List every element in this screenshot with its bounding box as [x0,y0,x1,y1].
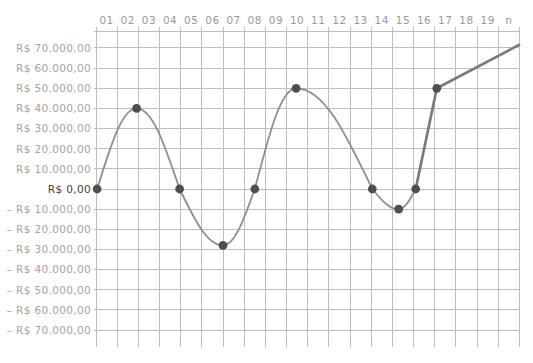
y-axis-label: – R$ 40.000,00 [7,263,91,275]
y-axis-label: – R$ 50.000,00 [7,284,91,296]
data-point-dot [93,185,102,194]
x-axis-label: 08 [248,14,262,26]
x-axis-label: 09 [269,14,283,26]
y-axis-label: R$ 10.000,00 [16,163,91,175]
x-axis-label: 07 [226,14,240,26]
y-axis-label: – R$ 10.000,00 [7,203,91,215]
x-axis-label: 03 [142,14,156,26]
x-axis-label: 12 [332,14,346,26]
x-axis-label: 05 [184,14,198,26]
data-point-dot [132,104,141,113]
x-axis-label: 11 [311,14,325,26]
x-axis-label: 04 [163,14,177,26]
x-axis-label: 17 [438,14,452,26]
data-point-dot [411,185,420,194]
chart-canvas: R$ 70.000,00R$ 60.000,00R$ 50.000,00R$ 4… [0,0,533,363]
x-axis-label: 13 [353,14,367,26]
x-axis-label: 19 [480,14,494,26]
y-axis-label: – R$ 70.000,00 [7,324,91,336]
data-point-dot [250,185,259,194]
data-point-dot [175,185,184,194]
x-axis-label: 16 [417,14,431,26]
x-axis-label: 18 [459,14,473,26]
data-point-dot [292,84,301,93]
x-axis-label: 15 [396,14,410,26]
x-axis-label: 14 [375,14,389,26]
y-axis-label: – R$ 60.000,00 [7,304,91,316]
y-axis-label: R$ 40.000,00 [16,102,91,114]
y-axis-label: R$ 30.000,00 [16,122,91,134]
data-point-dot [368,185,377,194]
y-axis-label: R$ 20.000,00 [16,143,91,155]
x-axis-label: 06 [205,14,219,26]
x-axis-label: 01 [99,14,113,26]
x-axis-label: n [505,14,512,26]
data-point-dot [394,205,403,214]
cash-flow-line-chart: R$ 70.000,00R$ 60.000,00R$ 50.000,00R$ 4… [0,0,533,363]
x-axis-label: 10 [290,14,304,26]
x-axis-label: 02 [121,14,135,26]
data-point-dot [432,84,441,93]
y-axis-label: – R$ 20.000,00 [7,223,91,235]
y-axis-label: R$ 60.000,00 [16,62,91,74]
y-axis-label: R$ 70.000,00 [16,42,91,54]
y-axis-label: R$ 50.000,00 [16,82,91,94]
y-axis-label: – R$ 30.000,00 [7,243,91,255]
data-point-dot [219,241,228,250]
y-axis-label-zero: R$ 0,00 [48,183,91,195]
